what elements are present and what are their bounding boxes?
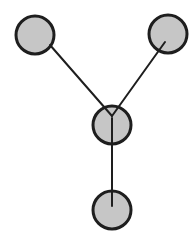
- tree-diagram: [0, 0, 196, 239]
- edge-top-left-to-center: [50, 45, 112, 116]
- node-top-right: [149, 15, 187, 53]
- edge-top-right-to-center: [112, 42, 165, 116]
- node-top-left: [16, 16, 54, 54]
